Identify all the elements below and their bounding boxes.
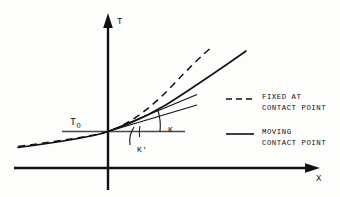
t0-label-subscript: O xyxy=(76,122,80,130)
temperature-axis xyxy=(103,13,113,190)
angle-k-label: K xyxy=(168,126,173,134)
legend-fixed-line2: CONTACT POINT xyxy=(262,105,326,112)
temperature-axis-label: T xyxy=(117,18,123,27)
legend-fixed-line1: FIXED AT xyxy=(262,94,301,101)
angle-arc-k-prime xyxy=(130,127,134,145)
distance-axis-label: X xyxy=(316,175,322,184)
tangent-line-lower xyxy=(108,105,197,132)
tangent-line-upper xyxy=(108,95,197,132)
distance-axis xyxy=(14,163,320,173)
t0-label: TO xyxy=(70,118,81,130)
legend-moving-line2: CONTACT POINT xyxy=(262,140,326,147)
angle-k-prime-label: K' xyxy=(137,146,147,154)
curve-moving-contact-point xyxy=(18,51,246,148)
legend-moving-line1: MOVING xyxy=(262,129,292,136)
